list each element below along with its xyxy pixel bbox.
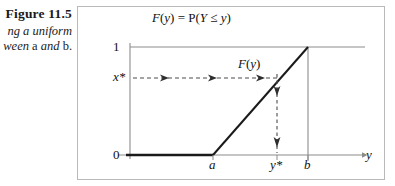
y-axis-tick-label-zero: 0: [113, 148, 120, 161]
formula-close-paren-2: ): [226, 10, 230, 25]
x-axis-tick-label-ystar: y*: [270, 158, 282, 171]
curve-label-close-paren: ): [256, 56, 260, 71]
figure-screenshot: Figure 11.5 ng a uniform ween a and b.: [0, 0, 395, 186]
y-axis-tick-label-one: 1: [113, 40, 120, 53]
xstar-arrowhead-2: [208, 75, 217, 82]
x-axis-tick-label-b: b: [304, 158, 311, 171]
caption-word-between: ween: [3, 39, 32, 53]
cdf-plot-graphic: [77, 6, 385, 180]
caption-word-and: and: [41, 39, 63, 53]
formula-f: F: [152, 10, 160, 25]
curve-label-f: F: [238, 56, 246, 71]
caption-symbol-b: b.: [63, 39, 72, 53]
y-axis-tick-label-xstar: x*: [113, 70, 125, 83]
ystar-arrowhead-2: [274, 137, 281, 148]
formula-leq: ≤: [207, 10, 221, 25]
formula-big-y: Y: [200, 10, 207, 25]
x-axis-name-label: y: [366, 148, 372, 161]
caption-symbol-a: a: [32, 39, 41, 53]
figure-caption-block: Figure 11.5 ng a uniform ween a and b.: [0, 0, 76, 186]
curve-label-fy: F(y): [238, 57, 260, 70]
figure-number-label: Figure 11.5: [6, 6, 72, 22]
formula-equals-prob: = P(: [174, 10, 199, 25]
x-axis-tick-label-a: a: [209, 158, 216, 171]
figure-caption-line-2: ween a and b.: [3, 39, 72, 54]
figure-caption-line-1: ng a uniform: [7, 24, 72, 39]
cdf-linear-ramp-segment: [213, 47, 308, 155]
cdf-formula-title: F(y) = P(Y ≤ y): [152, 11, 231, 24]
xstar-arrowhead-3: [256, 75, 265, 82]
